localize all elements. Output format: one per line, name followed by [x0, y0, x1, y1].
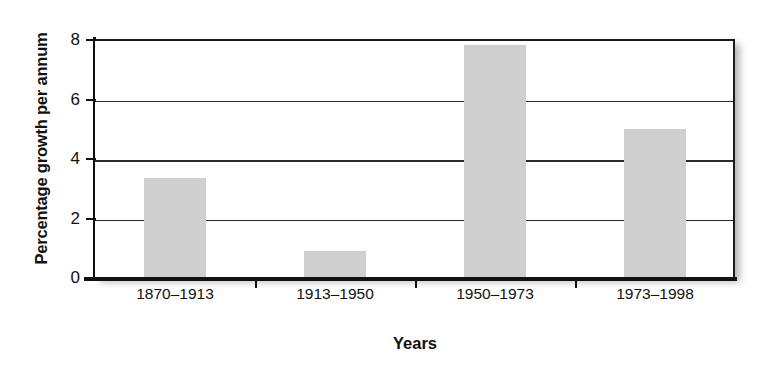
y-tick-label: 2 — [54, 209, 80, 226]
y-tick-mark — [86, 218, 96, 220]
x-axis-spine — [84, 277, 737, 281]
x-tick-label: 1950–1973 — [456, 285, 534, 303]
bar-chart-figure: Percentage growth per annum 02468 1870–1… — [0, 0, 769, 370]
y-axis-title: Percentage growth per annum — [32, 4, 51, 294]
y-tick-label: 6 — [54, 90, 80, 107]
gridline — [95, 101, 733, 103]
x-tick-label: 1913–1950 — [296, 285, 374, 303]
bar — [144, 178, 206, 279]
x-tick-mark — [415, 277, 417, 288]
y-tick-label: 4 — [54, 150, 80, 167]
y-tick-mark — [86, 158, 96, 160]
x-tick-mark — [255, 277, 257, 288]
y-tick-mark — [86, 99, 96, 101]
x-tick-mark — [575, 277, 577, 288]
y-tick-mark — [86, 277, 96, 279]
y-tick-label: 8 — [54, 31, 80, 48]
x-tick-label: 1870–1913 — [136, 285, 214, 303]
x-tick-label: 1973–1998 — [616, 285, 694, 303]
bar — [304, 251, 366, 279]
bar — [464, 45, 526, 279]
bar — [624, 129, 686, 279]
y-tick-label: 0 — [54, 269, 80, 286]
x-axis-title: Years — [95, 334, 735, 353]
plot-area — [95, 39, 735, 277]
y-tick-mark — [86, 39, 96, 41]
